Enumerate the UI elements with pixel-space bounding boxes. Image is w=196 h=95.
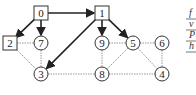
node-label: 4 — [159, 68, 165, 80]
node-0: 0 — [34, 6, 48, 20]
graph-diagram: 0127395684 fvPh — [0, 0, 196, 95]
node-4: 4 — [155, 67, 169, 81]
node-2: 2 — [3, 36, 17, 50]
tree-edge-1-3 — [47, 18, 97, 68]
node-8: 8 — [95, 67, 109, 81]
node-label: 9 — [99, 37, 105, 49]
node-label: 2 — [7, 37, 13, 49]
node-label: 8 — [99, 68, 105, 80]
node-label: 6 — [159, 37, 165, 49]
node-label: 1 — [99, 7, 105, 19]
node-1: 1 — [95, 6, 109, 20]
edge-5-4 — [138, 48, 157, 69]
node-9: 9 — [95, 36, 109, 50]
side-label: P — [188, 29, 195, 40]
edge-2-3 — [15, 48, 36, 69]
side-label: h — [189, 40, 194, 51]
node-6: 6 — [155, 36, 169, 50]
side-table: fvPh — [186, 7, 196, 52]
node-label: 7 — [38, 37, 44, 49]
node-label: 0 — [38, 7, 44, 19]
side-label: v — [189, 18, 194, 29]
tree-edge-1-5 — [107, 18, 127, 38]
node-7: 7 — [34, 36, 48, 50]
node-label: 3 — [38, 68, 44, 80]
node-label: 5 — [130, 37, 136, 49]
side-label: f — [189, 7, 193, 18]
tree-edges — [16, 13, 128, 68]
tree-edge-0-2 — [16, 18, 36, 38]
node-5: 5 — [126, 36, 140, 50]
node-3: 3 — [34, 67, 48, 81]
edge-5-8 — [107, 48, 128, 69]
